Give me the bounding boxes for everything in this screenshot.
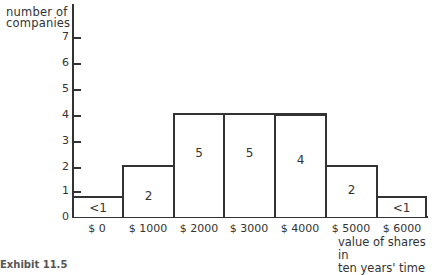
y-tick-label-4: 4: [57, 108, 69, 121]
bar-label: 2: [327, 183, 376, 197]
y-tick-4: [73, 115, 81, 117]
bar-3000: 5: [223, 113, 276, 217]
exhibit-caption: Exhibit 11.5: [0, 259, 67, 270]
bar-label: 2: [124, 189, 173, 203]
bar-0: <1: [72, 196, 124, 217]
y-tick-label-5: 5: [57, 82, 69, 95]
bar-2000: 5: [173, 113, 225, 217]
bar-label: 5: [175, 146, 223, 160]
bar-label: <1: [378, 201, 425, 215]
bar-label: 5: [225, 146, 274, 160]
y-tick-2: [73, 167, 81, 169]
y-tick-label-7: 7: [57, 30, 69, 43]
y-axis-label: number of companies: [6, 7, 70, 29]
y-tick-6: [73, 63, 81, 65]
y-tick-label-3: 3: [57, 134, 69, 147]
y-tick-7: [73, 37, 81, 39]
y-tick-3: [73, 141, 81, 143]
x-axis-label-line1: value of shares in: [338, 236, 432, 262]
bar-label: 4: [276, 153, 325, 167]
bar-5000: 2: [325, 165, 378, 217]
bar-1000: 2: [122, 165, 175, 217]
y-tick-5: [73, 89, 81, 91]
bar-label: <1: [74, 201, 122, 215]
y-axis-label-line2: companies: [6, 18, 70, 29]
x-tick-label: $ 6000: [372, 222, 432, 235]
x-axis-label-line2: ten years' time: [338, 262, 432, 275]
bar-4000: 4: [274, 114, 327, 217]
y-tick-1: [73, 191, 81, 193]
y-tick-label-6: 6: [57, 56, 69, 69]
x-axis-label: value of shares in ten years' time: [338, 236, 432, 275]
bar-6000: <1: [376, 196, 427, 217]
y-tick-label-1: 1: [57, 184, 69, 197]
y-tick-label-2: 2: [57, 160, 69, 173]
